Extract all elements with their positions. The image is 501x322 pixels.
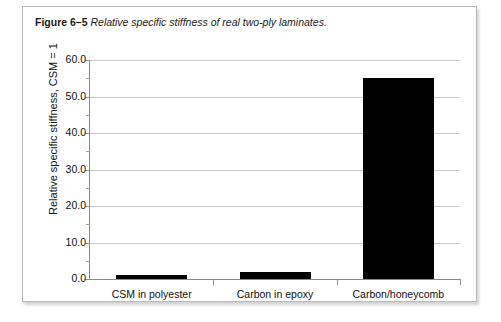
y-tick-minor — [86, 261, 90, 262]
bar — [240, 272, 311, 279]
x-axis-category-label: Carbon/honeycomb — [328, 288, 468, 300]
gridline — [90, 60, 460, 61]
figure-caption-text: Relative specific stiffness of real two-… — [90, 16, 326, 28]
y-tick-minor — [86, 188, 90, 189]
y-tick-label: 20.0 — [42, 199, 86, 211]
y-tick-minor — [86, 151, 90, 152]
y-tick-label: 0.0 — [42, 272, 86, 284]
y-tick-label: 60.0 — [42, 53, 86, 65]
x-axis-category-label: CSM in polyester — [82, 288, 222, 300]
figure-number: Figure 6–5 — [35, 16, 88, 28]
x-axis-category-label: Carbon in epoxy — [205, 288, 345, 300]
bar-chart: Relative specific stiffness, CSM = 1 0.0… — [23, 37, 478, 301]
bar — [116, 275, 187, 279]
y-tick-label: 30.0 — [42, 163, 86, 175]
y-tick-label: 50.0 — [42, 90, 86, 102]
figure-caption: Figure 6–5 Relative specific stiffness o… — [35, 16, 466, 28]
plot-area: 0.010.020.030.040.050.060.0 CSM in polye… — [89, 60, 460, 280]
y-tick-minor — [86, 115, 90, 116]
x-tick — [213, 279, 214, 285]
y-tick-label: 10.0 — [42, 236, 86, 248]
x-tick — [337, 279, 338, 285]
y-tick-label: 40.0 — [42, 126, 86, 138]
figure-page: Figure 6–5 Relative specific stiffness o… — [22, 6, 477, 302]
y-tick-minor — [86, 224, 90, 225]
gridline — [90, 279, 460, 280]
x-tick — [460, 279, 461, 285]
y-tick-minor — [86, 78, 90, 79]
bar — [363, 78, 434, 279]
